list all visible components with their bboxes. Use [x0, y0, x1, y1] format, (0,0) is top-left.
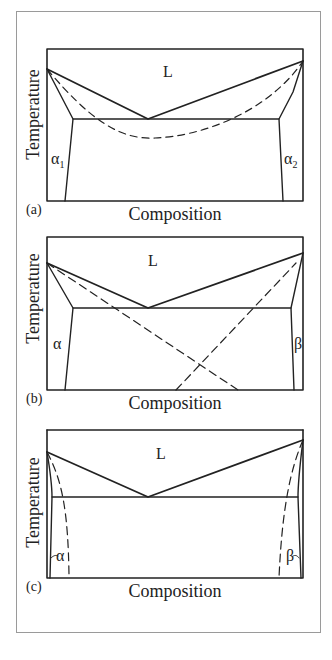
- panel-c-axes-box: [47, 430, 303, 578]
- panel-c-letter: (c): [26, 579, 42, 595]
- panel-a-letter: (a): [26, 202, 42, 218]
- panel-a-left-solidus-solvus: [47, 69, 73, 201]
- panel-c-left-phase-label: α: [56, 547, 64, 567]
- panel-a-liquidus: [47, 61, 303, 119]
- panel-b-letter: (b): [26, 391, 42, 407]
- panel-c-right-phase-label: β: [286, 547, 294, 567]
- panel-c-x-axis-label: Composition: [47, 581, 303, 602]
- panel-a-liquid-label: L: [163, 63, 173, 81]
- panel-b-liquidus: [47, 253, 303, 308]
- panel-b-right-phase-label: β: [294, 335, 302, 355]
- panel-a-dashed-curve: [47, 61, 303, 138]
- panel-a-right-phase-label: α2: [284, 150, 297, 170]
- panel-a-y-axis-label: Temperature: [23, 45, 44, 185]
- panel-c-y-axis-label: Temperature: [23, 433, 44, 573]
- panel-a-right-solidus-solvus: [279, 61, 303, 201]
- phase-diagrams: [0, 0, 332, 660]
- panel-c-diagram: [47, 430, 303, 578]
- panel-b-dashed-line-1: [47, 263, 238, 390]
- panel-b-right-solidus-solvus: [291, 253, 303, 390]
- panel-a-diagram: [47, 49, 303, 201]
- panel-b-left-phase-label: α: [53, 335, 61, 355]
- panel-b-diagram: [47, 237, 303, 390]
- panel-a-x-axis-label: Composition: [47, 204, 303, 225]
- panel-b-y-axis-label: Temperature: [23, 229, 44, 369]
- panel-b-left-solidus-solvus: [47, 263, 73, 390]
- panel-b-dashed-line-2: [176, 263, 296, 390]
- panel-a-axes-box: [47, 49, 303, 201]
- panel-b-liquid-label: L: [148, 252, 158, 270]
- panel-c-liquid-label: L: [156, 445, 166, 463]
- panel-a-left-phase-label: α1: [51, 150, 64, 170]
- panel-b-axes-box: [47, 237, 303, 390]
- panel-c-liquidus: [47, 440, 303, 497]
- panel-b-x-axis-label: Composition: [47, 393, 303, 414]
